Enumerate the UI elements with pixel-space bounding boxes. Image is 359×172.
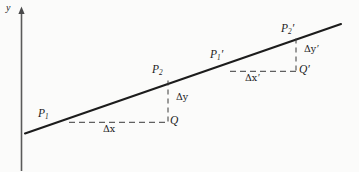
delta-x-prime-mark: ′ <box>257 72 259 83</box>
delta-y-prime-label: Δy′ <box>304 44 319 55</box>
point-label-q-prime-mark: ′ <box>307 63 310 75</box>
delta-y-text: Δy <box>176 91 188 102</box>
delta-x-text: Δx <box>103 123 115 134</box>
point-label-p1-prime-base: P <box>210 48 217 60</box>
diagram-canvas: y P1 P2 Q Δx Δy P1′ P2′ Q′ Δx′ Δy′ <box>0 0 359 171</box>
point-label-p2-base: P <box>152 63 159 75</box>
diagram-svg <box>0 0 359 171</box>
y-axis <box>18 7 24 172</box>
y-axis-label: y <box>6 3 10 13</box>
point-label-p2: P2 <box>152 64 163 77</box>
delta-y-prime-mark: ′ <box>316 43 318 54</box>
slope-line <box>25 24 341 134</box>
point-label-p2-prime-base: P <box>281 22 288 34</box>
delta-x-label: Δx <box>103 124 115 135</box>
point-label-q-prime: Q′ <box>299 64 310 76</box>
point-label-p2-prime: P2′ <box>281 23 294 36</box>
point-label-p1-prime-mark: ′ <box>221 48 224 60</box>
point-label-p2-subscript: 2 <box>159 69 163 77</box>
y-axis-arrowhead <box>18 7 24 15</box>
point-label-p1-subscript: 1 <box>45 113 49 121</box>
delta-x-prime-text: Δx <box>245 72 257 83</box>
delta-y-label: Δy <box>176 92 188 103</box>
delta-x-prime-label: Δx′ <box>245 73 260 84</box>
point-label-p2-prime-mark: ′ <box>292 22 295 34</box>
point-label-p1: P1 <box>38 108 49 121</box>
point-label-p1-prime: P1′ <box>210 49 223 62</box>
point-label-p1-base: P <box>38 107 45 119</box>
point-label-q: Q <box>170 115 178 127</box>
delta-y-prime-text: Δy <box>304 43 316 54</box>
